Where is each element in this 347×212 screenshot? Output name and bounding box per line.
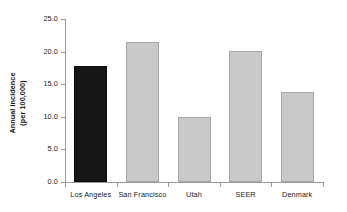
- y-tick-mark: [61, 52, 65, 53]
- x-tick-mark: [323, 182, 324, 187]
- bar-denmark: [281, 92, 314, 182]
- bar-san-francisco: [126, 42, 159, 182]
- y-axis-title: Annual incidence (per 100,000): [8, 53, 34, 153]
- bar-los-angeles: [74, 66, 107, 182]
- bar-seer: [229, 51, 262, 182]
- x-tick-mark: [271, 182, 272, 187]
- y-tick-mark: [61, 149, 65, 150]
- x-tick-mark: [117, 182, 118, 187]
- y-tick-label: 25.0: [29, 14, 58, 23]
- plot-area: 0.05.010.015.020.025.0: [65, 19, 323, 182]
- y-tick-mark: [61, 84, 65, 85]
- y-tick-label: 0.0: [29, 177, 58, 186]
- x-label-san-francisco: San Francisco: [117, 190, 169, 199]
- x-label-utah: Utah: [168, 190, 220, 199]
- y-tick-mark: [61, 117, 65, 118]
- y-tick-label: 5.0: [29, 144, 58, 153]
- y-tick-label: 10.0: [29, 112, 58, 121]
- x-label-denmark: Denmark: [271, 190, 323, 199]
- x-label-seer: SEER: [220, 190, 272, 199]
- y-tick-label: 15.0: [29, 79, 58, 88]
- bar-utah: [178, 117, 211, 182]
- x-tick-mark: [220, 182, 221, 187]
- y-tick-mark: [61, 19, 65, 20]
- x-axis-line: [65, 182, 324, 183]
- x-tick-mark: [65, 182, 66, 187]
- y-tick-label: 20.0: [29, 47, 58, 56]
- x-tick-mark: [168, 182, 169, 187]
- x-label-los-angeles: Los Angeles: [65, 190, 117, 199]
- bar-chart: Annual incidence (per 100,000) 0.05.010.…: [0, 0, 347, 212]
